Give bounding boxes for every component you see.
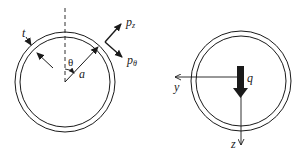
thickness-label: t <box>22 26 26 40</box>
load-arrow-shaft <box>237 66 244 88</box>
load-arrow-head-icon <box>233 88 248 98</box>
theta-label: θ <box>68 56 73 68</box>
z-axis-label: z <box>230 137 236 151</box>
theta-arc-icon <box>65 69 74 73</box>
pressure-theta-label: pθ <box>126 53 137 68</box>
right-panel: y z q <box>173 31 291 151</box>
left-panel: θ a t pz pθ <box>15 8 137 132</box>
pressure-theta-arrow <box>105 42 122 57</box>
load-label: q <box>247 71 253 85</box>
thickness-inner-arrow <box>37 53 53 68</box>
tube-cross-section-diagram: θ a t pz pθ y z q <box>0 0 305 154</box>
y-axis-label: y <box>173 80 180 94</box>
radius-label: a <box>79 67 85 81</box>
pressure-z-label: pz <box>125 15 136 30</box>
pressure-z-arrow <box>105 24 121 42</box>
thickness-outer-arrow <box>26 37 31 45</box>
